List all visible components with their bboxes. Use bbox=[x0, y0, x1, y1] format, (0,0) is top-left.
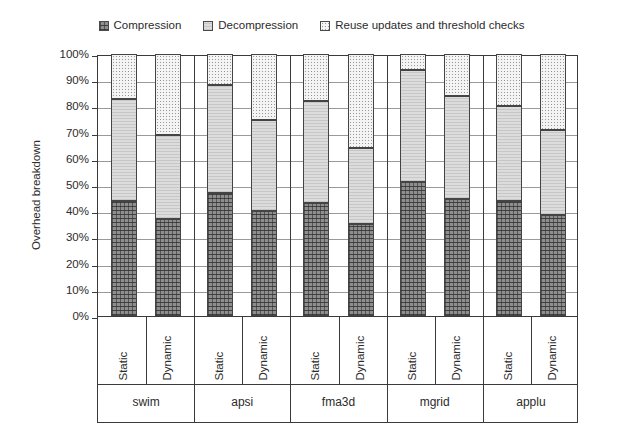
bar-segment-reuse[interactable] bbox=[207, 54, 233, 85]
y-axis-tick bbox=[92, 108, 98, 109]
group-label-apsi: apsi bbox=[194, 396, 290, 408]
y-axis-tick-label: 50% bbox=[45, 180, 89, 192]
chart-root: CompressionDecompressionReuse updates an… bbox=[0, 0, 623, 442]
group-label-applu: applu bbox=[483, 396, 579, 408]
bar-segment-decompression[interactable] bbox=[155, 135, 181, 219]
stacked-bar[interactable] bbox=[251, 54, 277, 316]
legend-swatch-reuse bbox=[320, 21, 330, 31]
y-axis-tick bbox=[92, 213, 98, 214]
y-axis-tick bbox=[92, 239, 98, 240]
subcategory-separator bbox=[531, 317, 532, 384]
plot-group-separator bbox=[290, 56, 291, 316]
y-axis-tick-label: 0% bbox=[45, 311, 89, 323]
y-axis-tick bbox=[92, 161, 98, 162]
bar-segment-reuse[interactable] bbox=[111, 54, 137, 99]
stacked-bar[interactable] bbox=[444, 54, 470, 316]
subcategory-label-dynamic: Dynamic bbox=[547, 335, 559, 380]
legend-item-label: Decompression bbox=[218, 20, 298, 32]
stacked-bar[interactable] bbox=[496, 54, 522, 316]
bar-segment-reuse[interactable] bbox=[496, 54, 522, 106]
subcategory-separator bbox=[242, 317, 243, 384]
y-axis-tick bbox=[92, 266, 98, 267]
subcategory-label-static: Static bbox=[214, 351, 226, 380]
chart-legend: CompressionDecompressionReuse updates an… bbox=[0, 20, 623, 32]
stacked-bar[interactable] bbox=[303, 54, 329, 316]
subcategory-separator bbox=[194, 317, 195, 384]
group-label-swim: swim bbox=[98, 396, 194, 408]
stacked-bar[interactable] bbox=[207, 54, 233, 316]
bar-segment-compression[interactable] bbox=[496, 201, 522, 316]
bar-segment-decompression[interactable] bbox=[348, 148, 374, 224]
bar-segment-decompression[interactable] bbox=[111, 99, 137, 201]
bar-segment-decompression[interactable] bbox=[540, 130, 566, 215]
legend-item: Reuse updates and threshold checks bbox=[320, 20, 524, 32]
bar-segment-compression[interactable] bbox=[540, 215, 566, 316]
plot-area bbox=[97, 55, 578, 317]
y-axis-tick bbox=[92, 292, 98, 293]
bar-segment-reuse[interactable] bbox=[303, 54, 329, 101]
legend-item-label: Compression bbox=[114, 20, 182, 32]
subcategory-separator bbox=[387, 317, 388, 384]
legend-item: Decompression bbox=[203, 20, 298, 32]
stacked-bar[interactable] bbox=[155, 54, 181, 316]
stacked-bar[interactable] bbox=[111, 54, 137, 316]
y-axis-tick bbox=[92, 135, 98, 136]
subcategory-label-dynamic: Dynamic bbox=[162, 335, 174, 380]
plot-group-separator bbox=[194, 56, 195, 316]
stacked-bar[interactable] bbox=[540, 54, 566, 316]
bar-segment-reuse[interactable] bbox=[400, 54, 426, 70]
subcategory-separator bbox=[146, 317, 147, 384]
subcategory-separator bbox=[435, 317, 436, 384]
bar-segment-compression[interactable] bbox=[303, 203, 329, 316]
plot-group-separator bbox=[483, 56, 484, 316]
subcategory-axis-row: StaticDynamicStaticDynamicStaticDynamicS… bbox=[97, 317, 578, 385]
bar-segment-compression[interactable] bbox=[444, 199, 470, 316]
plot-group-separator bbox=[387, 56, 388, 316]
bar-segment-decompression[interactable] bbox=[303, 101, 329, 203]
subcategory-label-dynamic: Dynamic bbox=[354, 335, 366, 380]
subcategory-label-dynamic: Dynamic bbox=[450, 335, 462, 380]
legend-item-label: Reuse updates and threshold checks bbox=[335, 20, 524, 32]
bar-segment-decompression[interactable] bbox=[444, 96, 470, 199]
subcategory-label-dynamic: Dynamic bbox=[258, 335, 270, 380]
y-axis-tick-label: 10% bbox=[45, 285, 89, 297]
subcategory-separator bbox=[483, 317, 484, 384]
bar-segment-compression[interactable] bbox=[155, 219, 181, 316]
y-axis-title: Overhead breakdown bbox=[30, 140, 42, 250]
stacked-bar[interactable] bbox=[348, 54, 374, 316]
legend-swatch-decompression bbox=[203, 21, 213, 31]
legend-swatch-compression bbox=[99, 21, 109, 31]
bar-segment-reuse[interactable] bbox=[540, 54, 566, 130]
bar-segment-reuse[interactable] bbox=[444, 54, 470, 96]
y-axis-tick-label: 60% bbox=[45, 154, 89, 166]
y-axis-tick-label: 30% bbox=[45, 232, 89, 244]
bar-segment-reuse[interactable] bbox=[251, 54, 277, 120]
bar-segment-reuse[interactable] bbox=[155, 54, 181, 135]
bar-segment-compression[interactable] bbox=[207, 193, 233, 316]
bar-segment-decompression[interactable] bbox=[251, 120, 277, 212]
y-axis-tick-label: 20% bbox=[45, 259, 89, 271]
bar-segment-compression[interactable] bbox=[348, 224, 374, 316]
y-axis-tick-label: 70% bbox=[45, 128, 89, 140]
subcategory-separator bbox=[290, 317, 291, 384]
y-axis-tick-label: 80% bbox=[45, 101, 89, 113]
group-label-fma3d: fma3d bbox=[290, 396, 386, 408]
y-axis-tick bbox=[92, 82, 98, 83]
stacked-bar[interactable] bbox=[400, 54, 426, 316]
bar-segment-decompression[interactable] bbox=[496, 106, 522, 200]
bar-segment-compression[interactable] bbox=[251, 211, 277, 316]
bar-segment-decompression[interactable] bbox=[400, 70, 426, 183]
y-axis-tick-label: 100% bbox=[45, 49, 89, 61]
y-axis-tick bbox=[92, 187, 98, 188]
subcategory-label-static: Static bbox=[310, 351, 322, 380]
y-axis-tick-label: 40% bbox=[45, 206, 89, 218]
bar-segment-reuse[interactable] bbox=[348, 54, 374, 148]
subcategory-separator bbox=[339, 317, 340, 384]
group-axis-row: swimapsifma3dmgridapplu bbox=[97, 385, 578, 423]
group-label-mgrid: mgrid bbox=[387, 396, 483, 408]
bar-segment-compression[interactable] bbox=[111, 201, 137, 316]
bar-segment-compression[interactable] bbox=[400, 182, 426, 316]
bar-segment-decompression[interactable] bbox=[207, 85, 233, 192]
subcategory-label-static: Static bbox=[502, 351, 514, 380]
subcategory-label-static: Static bbox=[117, 351, 129, 380]
